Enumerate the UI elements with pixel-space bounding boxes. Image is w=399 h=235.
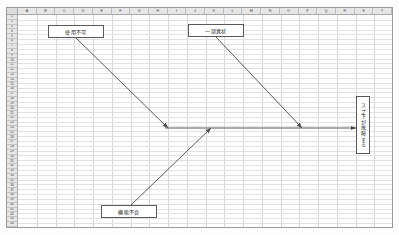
column-header-m[interactable]: M (242, 8, 261, 14)
grid-line-horizontal (18, 92, 392, 93)
row-header-44[interactable]: 44 (7, 222, 17, 227)
row-header-column[interactable]: 1234567891011121314151617181920212223242… (7, 15, 18, 227)
grid-line-horizontal (18, 194, 392, 195)
grid-line-horizontal (18, 68, 392, 69)
grid-line-horizontal (18, 209, 392, 210)
column-header-l[interactable]: L (224, 8, 243, 14)
column-header-o[interactable]: O (280, 8, 299, 14)
grid-line-horizontal (18, 155, 392, 156)
column-header-h[interactable]: H (149, 8, 168, 14)
grid-line-horizontal (18, 49, 392, 50)
grid-line-horizontal (18, 126, 392, 127)
grid-line-horizontal (18, 20, 392, 21)
grid-line-horizontal (18, 117, 392, 118)
grid-line-horizontal (18, 63, 392, 64)
grid-line-horizontal (18, 141, 392, 142)
column-header-p[interactable]: P (299, 8, 318, 14)
worksheet-area[interactable]: ABCDEFGHIJKLMNOPQRST 1234567891011121314… (6, 7, 393, 228)
grid-line-horizontal (18, 73, 392, 74)
select-all-corner[interactable] (7, 8, 18, 14)
grid-line-horizontal (18, 102, 392, 103)
grid-line-horizontal (18, 165, 392, 166)
column-header-a[interactable]: A (18, 8, 37, 14)
column-header-t[interactable]: T (373, 8, 392, 14)
grid-line-horizontal (18, 131, 392, 132)
grid-line-horizontal (18, 184, 392, 185)
cell-grid[interactable] (18, 15, 392, 227)
grid-line-horizontal (18, 107, 392, 108)
grid-line-horizontal (18, 78, 392, 79)
grid-line-horizontal (18, 189, 392, 190)
column-header-row[interactable]: ABCDEFGHIJKLMNOPQRST (7, 8, 392, 15)
grid-line-horizontal (18, 112, 392, 113)
column-header-b[interactable]: B (37, 8, 56, 14)
grid-line-horizontal (18, 59, 392, 60)
column-header-r[interactable]: R (336, 8, 355, 14)
grid-line-horizontal (18, 146, 392, 147)
grid-line-horizontal (18, 199, 392, 200)
text-box-function-defect[interactable]: 機能不良 (101, 205, 157, 218)
column-header-i[interactable]: I (168, 8, 187, 14)
column-header-k[interactable]: K (205, 8, 224, 14)
grid-line-horizontal (18, 223, 392, 224)
grid-line-horizontal (18, 54, 392, 55)
grid-line-horizontal (18, 160, 392, 161)
column-header-s[interactable]: S (355, 8, 374, 14)
column-header-j[interactable]: J (186, 8, 205, 14)
grid-line-horizontal (18, 39, 392, 40)
text-box-usage-not-possible[interactable]: 使用不可 (48, 25, 104, 38)
grid-line-horizontal (18, 97, 392, 98)
spreadsheet-drawing-canvas: ABCDEFGHIJKLMNOPQRST 1234567891011121314… (0, 0, 399, 235)
grid-line-horizontal (18, 44, 392, 45)
column-header-f[interactable]: F (112, 8, 131, 14)
grid-line-horizontal (18, 88, 392, 89)
grid-line-horizontal (18, 83, 392, 84)
grid-line-horizontal (18, 136, 392, 137)
grid-line-horizontal (18, 122, 392, 123)
column-header-g[interactable]: G (130, 8, 149, 14)
column-header-q[interactable]: Q (317, 8, 336, 14)
text-box-sprinkler-failure[interactable]: スプ下が故障する (356, 96, 370, 154)
grid-line-horizontal (18, 175, 392, 176)
grid-line-horizontal (18, 180, 392, 181)
column-header-e[interactable]: E (93, 8, 112, 14)
text-box-partial-abnormality[interactable]: 一部異状 (188, 24, 244, 37)
grid-line-horizontal (18, 151, 392, 152)
grid-line-horizontal (18, 213, 392, 214)
column-header-c[interactable]: C (55, 8, 74, 14)
column-header-d[interactable]: D (74, 8, 93, 14)
grid-line-horizontal (18, 204, 392, 205)
grid-line-horizontal (18, 170, 392, 171)
column-header-n[interactable]: N (261, 8, 280, 14)
grid-line-horizontal (18, 218, 392, 219)
